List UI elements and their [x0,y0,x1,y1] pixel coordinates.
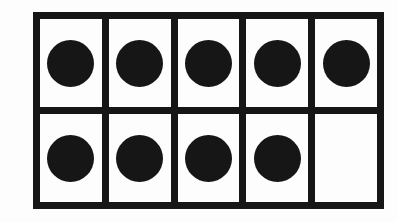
filled-circle-counter-icon[interactable] [47,135,94,182]
ten-frame-cell-r1c3[interactable] [178,19,240,107]
filled-circle-counter-icon[interactable] [323,40,370,87]
ten-frame-grid [33,12,384,209]
ten-frame-border [33,12,384,209]
filled-circle-counter-icon[interactable] [185,40,232,87]
ten-frame-figure [0,0,397,222]
ten-frame-cell-r2c5[interactable] [315,114,377,202]
ten-frame-cell-r1c1[interactable] [40,19,102,107]
ten-frame-cell-r2c4[interactable] [246,114,308,202]
ten-frame-cell-r2c3[interactable] [178,114,240,202]
ten-frame-cell-r1c2[interactable] [109,19,171,107]
filled-circle-counter-icon[interactable] [116,135,163,182]
filled-circle-counter-icon[interactable] [254,40,301,87]
filled-circle-counter-icon[interactable] [116,40,163,87]
ten-frame-cell-r1c5[interactable] [315,19,377,107]
filled-circle-counter-icon[interactable] [185,135,232,182]
ten-frame-cell-r2c2[interactable] [109,114,171,202]
filled-circle-counter-icon[interactable] [254,135,301,182]
ten-frame-cell-r2c1[interactable] [40,114,102,202]
filled-circle-counter-icon[interactable] [47,40,94,87]
ten-frame-cell-r1c4[interactable] [246,19,308,107]
